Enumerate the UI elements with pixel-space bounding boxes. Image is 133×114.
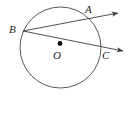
point-label-c: C	[102, 50, 109, 61]
geometry-canvas	[0, 0, 133, 114]
center-point-dot	[58, 41, 63, 46]
point-label-b: B	[9, 24, 16, 35]
ray-BC	[23, 31, 123, 51]
geometry-figure: A B C O	[0, 0, 133, 114]
point-label-a: A	[85, 4, 92, 15]
ray-BA	[23, 13, 118, 31]
point-label-o: O	[53, 50, 61, 61]
circle-outline	[20, 7, 101, 88]
